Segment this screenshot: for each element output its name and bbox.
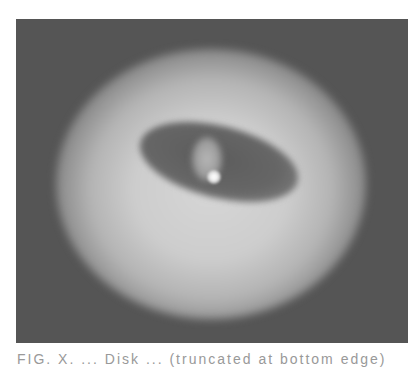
central-point-source [207,170,221,184]
figure-caption-truncated: FIG. X. ... Disk ... (truncated at botto… [17,352,386,366]
astronomical-image [16,19,408,343]
